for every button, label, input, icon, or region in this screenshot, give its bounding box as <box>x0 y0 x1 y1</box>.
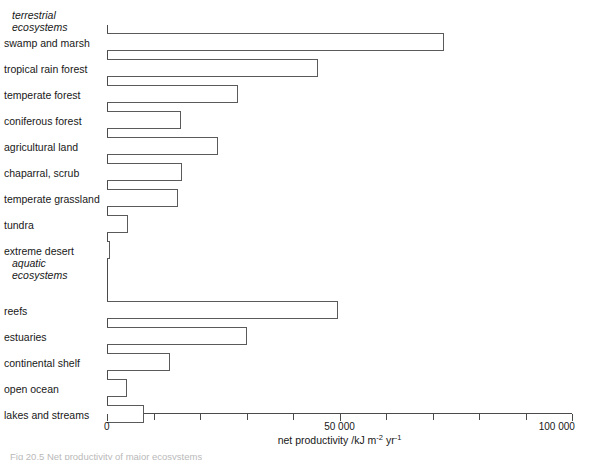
category-label: estuaries <box>4 331 98 343</box>
x-axis-minor-tick <box>433 414 434 420</box>
x-axis-minor-tick <box>293 414 294 420</box>
x-axis-title: net productivity /kJ m-2 yr-1 <box>107 434 572 446</box>
category-label: reefs <box>4 305 98 317</box>
bar <box>107 163 182 181</box>
category-label: swamp and marsh <box>4 37 98 49</box>
bar <box>107 59 318 77</box>
category-label: temperate forest <box>4 89 98 101</box>
x-axis-title-text: net productivity /kJ m <box>278 434 377 446</box>
x-axis-tick <box>340 414 341 421</box>
bar <box>107 137 218 155</box>
x-axis-tick-label: 0 <box>104 421 110 432</box>
x-axis-tick <box>107 414 108 421</box>
category-label: chaparral, scrub <box>4 167 98 179</box>
x-axis-minor-tick <box>154 414 155 420</box>
category-label: lakes and streams <box>4 409 98 421</box>
bar <box>107 85 238 103</box>
category-label: agricultural land <box>4 141 98 153</box>
bar <box>107 189 178 207</box>
figure-caption: Fig 20.5 Net productivity of major ecosy… <box>10 451 202 460</box>
plot-area: net productivity /kJ m-2 yr-1 050 000100… <box>107 0 605 420</box>
x-axis-minor-tick <box>200 414 201 420</box>
bar <box>107 215 128 233</box>
bar <box>107 33 444 51</box>
x-axis-minor-tick <box>247 414 248 420</box>
x-axis-tick-label: 100 000 <box>539 421 575 432</box>
category-label: open ocean <box>4 383 98 395</box>
category-label: extreme desert <box>4 245 98 257</box>
bar <box>107 353 170 371</box>
bar <box>107 241 110 259</box>
category-label: coniferous forest <box>4 115 98 127</box>
bar <box>107 379 127 397</box>
bar <box>107 327 247 345</box>
bar <box>107 111 181 129</box>
x-axis-minor-tick <box>479 414 480 420</box>
x-axis-tick <box>572 414 573 421</box>
category-label: tundra <box>4 219 98 231</box>
x-axis-title-sup-1: -2 <box>376 433 383 442</box>
category-label: tropical rain forest <box>4 63 98 75</box>
net-productivity-bar-chart: terrestrial ecosystems aquatic ecosystem… <box>0 0 605 460</box>
category-label-column: swamp and marshtropical rain foresttempe… <box>0 0 107 420</box>
bar <box>107 405 144 423</box>
x-axis-minor-tick <box>386 414 387 420</box>
x-axis-title-mid: yr <box>383 434 395 446</box>
category-label: continental shelf <box>4 357 98 369</box>
x-axis-title-sup-2: -1 <box>395 433 402 442</box>
x-axis-tick-label: 50 000 <box>324 421 355 432</box>
x-axis-minor-tick <box>526 414 527 420</box>
category-label: temperate grassland <box>4 193 98 205</box>
bar <box>107 301 338 319</box>
